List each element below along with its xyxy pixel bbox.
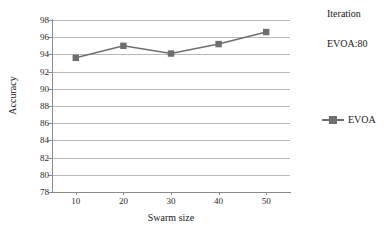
x-axis-title: Swarm size <box>52 212 290 223</box>
y-axis-tick-label: 98 <box>40 16 49 25</box>
x-axis-tick-mark <box>123 192 124 195</box>
y-axis-tick-label: 88 <box>40 102 49 111</box>
x-axis-tick-label: 20 <box>119 196 128 206</box>
y-axis-tick-labels: 9896949290888684828078 <box>26 20 49 192</box>
data-point-marker <box>120 43 126 49</box>
data-series-layer <box>52 20 290 192</box>
annotation-evoa-iterations: EVOA:80 <box>327 38 368 50</box>
x-axis-tick-mark <box>266 192 267 195</box>
data-point-marker <box>263 29 269 35</box>
y-axis-tick-label: 90 <box>40 84 49 93</box>
x-axis-tick-mark <box>171 192 172 195</box>
y-axis-tick-label: 84 <box>40 136 49 145</box>
x-axis-tick-label: 30 <box>167 196 176 206</box>
line-chart-figure: 9896949290888684828078 1020304050 Swarm … <box>0 0 386 238</box>
y-axis-tick-label: 92 <box>40 67 49 76</box>
data-point-marker <box>168 50 174 56</box>
legend-label-evoa: EVOA <box>348 114 376 125</box>
data-point-marker <box>215 41 221 47</box>
legend-square-marker-icon <box>329 116 337 124</box>
y-axis-tick-label: 86 <box>40 119 49 128</box>
y-axis-tick-label: 94 <box>40 50 49 59</box>
chart-legend: EVOA <box>322 114 376 125</box>
x-axis-tick-label: 10 <box>71 196 80 206</box>
y-axis-tick-label: 80 <box>40 170 49 179</box>
x-axis-tick-label: 40 <box>214 196 223 206</box>
y-axis-tick-label: 82 <box>40 153 49 162</box>
y-axis-title: Accuracy <box>7 56 18 136</box>
y-axis-tick-label: 96 <box>40 33 49 42</box>
annotation-iteration: Iteration <box>327 8 361 20</box>
x-axis-tick-mark <box>76 192 77 195</box>
data-point-marker <box>73 55 79 61</box>
x-axis-tick-mark <box>219 192 220 195</box>
x-axis-tick-label: 50 <box>262 196 271 206</box>
legend-marker-icon <box>322 115 344 125</box>
y-axis-tick-label: 78 <box>40 188 49 197</box>
